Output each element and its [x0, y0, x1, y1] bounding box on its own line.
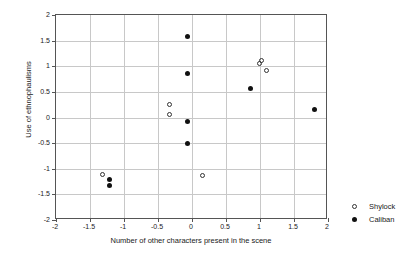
x-tick-label: 2: [312, 222, 342, 231]
gridline-horizontal: [56, 118, 326, 119]
plot-area: [55, 14, 327, 219]
data-point-caliban: [312, 107, 317, 112]
filled-circle-icon: [352, 217, 357, 222]
tick-mark-y: [52, 15, 56, 16]
data-point-shylock: [167, 102, 172, 107]
data-point-shylock: [100, 172, 105, 177]
gridline-vertical: [192, 15, 193, 218]
open-circle-icon: [352, 204, 357, 209]
x-tick-label: 0: [176, 222, 206, 231]
x-tick-label: -1: [108, 222, 138, 231]
y-tick-label: -2: [26, 215, 50, 224]
data-point-caliban: [248, 86, 253, 91]
legend-item-shylock: Shylock: [352, 200, 414, 213]
tick-mark-y: [52, 143, 56, 144]
x-tick-label: -1.5: [74, 222, 104, 231]
gridline-vertical: [226, 15, 227, 218]
data-point-caliban: [185, 141, 190, 146]
data-point-shylock: [259, 58, 264, 63]
gridline-vertical: [124, 15, 125, 218]
data-point-caliban: [107, 183, 112, 188]
gridline-horizontal: [56, 169, 326, 170]
gridline-horizontal: [56, 92, 326, 93]
data-point-shylock: [264, 68, 269, 73]
data-point-caliban: [185, 34, 190, 39]
data-point-caliban: [185, 119, 190, 124]
gridline-horizontal: [56, 194, 326, 195]
y-tick-label: -1.5: [26, 189, 50, 198]
tick-mark-y: [52, 194, 56, 195]
gridline-vertical: [158, 15, 159, 218]
data-point-caliban: [185, 71, 190, 76]
tick-mark-y: [52, 118, 56, 119]
legend-label: Caliban: [369, 213, 394, 226]
gridline-vertical: [260, 15, 261, 218]
tick-mark-y: [52, 92, 56, 93]
tick-mark-y: [52, 220, 56, 221]
x-tick-label: 1.5: [278, 222, 308, 231]
y-axis-title: Use of ethnophaulisms: [24, 20, 33, 180]
data-point-caliban: [107, 177, 112, 182]
gridline-vertical: [90, 15, 91, 218]
x-tick-label: 1: [244, 222, 274, 231]
scatter-plot-figure: -2-1.5-1-0.500.511.52 -2-1.5-1-0.500.511…: [0, 0, 415, 258]
tick-mark-y: [52, 41, 56, 42]
gridline-horizontal: [56, 41, 326, 42]
gridline-horizontal: [56, 143, 326, 144]
legend: ShylockCaliban: [352, 200, 414, 226]
x-tick-label: -0.5: [142, 222, 172, 231]
gridline-horizontal: [56, 66, 326, 67]
tick-mark-y: [52, 169, 56, 170]
tick-mark-y: [52, 66, 56, 67]
y-tick-label: 2: [26, 10, 50, 19]
legend-label: Shylock: [369, 200, 395, 213]
x-axis-title: Number of other characters present in th…: [55, 236, 327, 245]
x-tick-label: 0.5: [210, 222, 240, 231]
gridline-vertical: [294, 15, 295, 218]
legend-item-caliban: Caliban: [352, 213, 414, 226]
data-point-shylock: [200, 173, 205, 178]
